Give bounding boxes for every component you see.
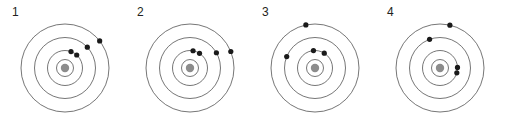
electron-inner-b — [74, 52, 79, 57]
atom-model-1: 1 — [0, 0, 125, 133]
atom-model-3: 3 — [250, 0, 375, 133]
atomic-models-figure: 1234 — [0, 0, 505, 133]
electron-inner-a — [68, 49, 73, 54]
atom-diagram-svg-3 — [250, 0, 375, 133]
atom-model-4: 4 — [375, 0, 500, 133]
electron-inner-b — [322, 51, 327, 56]
electron-inner-b — [197, 51, 202, 56]
electron-outer — [228, 49, 233, 54]
electron-inner-b — [454, 70, 459, 75]
electron-middle — [214, 50, 219, 55]
electron-outer — [447, 23, 452, 28]
electron-middle — [85, 45, 90, 50]
electron-inner-a — [190, 48, 195, 53]
electron-outer — [303, 22, 308, 27]
electron-middle — [427, 37, 432, 42]
electron-inner-a — [455, 65, 460, 70]
nucleus — [311, 64, 319, 72]
atom-diagram-svg-4 — [375, 0, 500, 133]
electron-inner-a — [311, 48, 316, 53]
atom-diagram-svg-1 — [0, 0, 125, 133]
atom-diagram-svg-2 — [125, 0, 250, 133]
nucleus — [61, 64, 69, 72]
electron-outer — [97, 38, 102, 43]
nucleus — [436, 64, 444, 72]
atom-model-2: 2 — [125, 0, 250, 133]
nucleus — [186, 64, 194, 72]
electron-middle — [284, 54, 289, 59]
